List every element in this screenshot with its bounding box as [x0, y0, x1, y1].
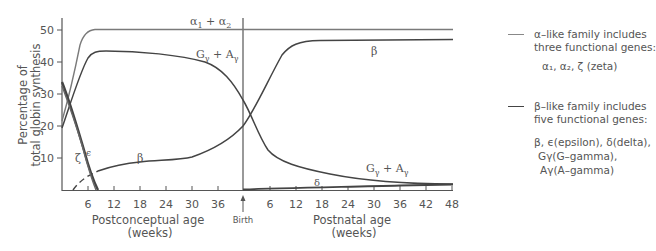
legend-alpha-line1: α–like family includes: [534, 28, 647, 41]
y-tick-label: 50: [40, 24, 54, 37]
beta-curve: [98, 40, 453, 172]
x-tick-label: 18: [133, 198, 147, 211]
label-gamma-postnatal: Gγ + Aγ: [366, 162, 409, 177]
x-tick-label: 48: [445, 198, 459, 211]
x-axis-title-postnatal: Postnatal age: [313, 213, 391, 227]
x-tick-label: 42: [419, 198, 433, 211]
x-tick-label: 24: [159, 198, 173, 211]
birth-label: Birth: [233, 215, 253, 225]
alpha-curve: [62, 30, 453, 122]
x-tick-label: 36: [211, 198, 225, 211]
legend-alpha-swatch: [508, 34, 524, 35]
x-tick-label: 30: [185, 198, 199, 211]
svg-text:Percentage of: Percentage of: [16, 64, 30, 144]
legend-beta-line2: five functional genes:: [534, 113, 647, 126]
label-gamma-prenatal: Gγ + Aγ: [196, 48, 239, 63]
y-axis-title: Percentage of total globin synthesis: [16, 43, 43, 166]
x-tick-label: 18: [315, 198, 329, 211]
x-tick-label: 6: [267, 198, 274, 211]
label-beta-postnatal: β: [371, 45, 377, 58]
legend-beta-genes1: β, ϵ(epsilon), δ(delta),: [534, 136, 651, 149]
svg-text:total globin synthesis: total globin synthesis: [29, 43, 43, 166]
x-tick-label: 36: [393, 198, 407, 211]
label-alpha: α1 + α2: [190, 15, 231, 30]
x-tick-label: 30: [367, 198, 381, 211]
x-tick-label: 12: [289, 198, 303, 211]
legend-alpha-line2: three functional genes:: [534, 41, 656, 54]
legend-beta-swatch: [508, 106, 524, 107]
legend-beta-genes3: Aγ(A–gamma): [540, 164, 614, 177]
x-axis-title-postnatal-unit: (weeks): [331, 226, 376, 240]
label-zeta: ζ: [75, 152, 81, 165]
legend-alpha-genes: α₁, α₂, ζ (zeta): [542, 60, 617, 73]
x-tick-label: 12: [107, 198, 121, 211]
x-tick-label: 6: [85, 198, 92, 211]
label-beta-prenatal: β: [137, 152, 143, 165]
epsilon-curve: [62, 86, 96, 190]
legend-beta-genes2: Gγ(G–gamma),: [538, 150, 617, 163]
x-tick-label: 24: [341, 198, 355, 211]
label-epsilon: ϵ: [86, 148, 91, 158]
x-axis-title-prenatal: Postconceptual age: [92, 213, 205, 227]
legend-alpha: α–like family includes three functional …: [508, 28, 645, 88]
x-axis-title-prenatal-unit: (weeks): [127, 226, 172, 240]
birth-arrow-icon: [241, 195, 246, 212]
label-delta: δ: [314, 177, 320, 188]
legend-beta: β–like family includes five functional g…: [508, 100, 645, 200]
y-ticks: [57, 30, 62, 158]
legend-beta-line1: β–like family includes: [534, 100, 647, 113]
